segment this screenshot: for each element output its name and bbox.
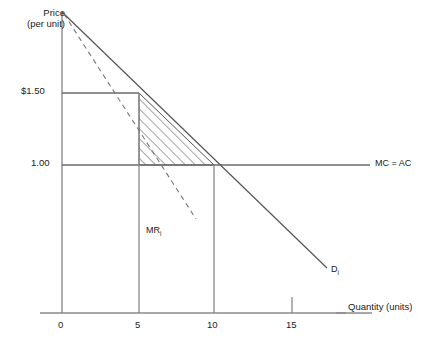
y-axis-title: Price (per unit) bbox=[27, 8, 65, 29]
x-tick-label-15: 15 bbox=[286, 320, 297, 331]
marginal-revenue-line bbox=[64, 14, 196, 219]
x-axis-title: Quantity (units) bbox=[348, 302, 412, 313]
price-label-low: 1.00 bbox=[31, 158, 50, 169]
demand-label-subscript: i bbox=[338, 269, 339, 276]
mc-ac-curve-label: MC = AC bbox=[375, 158, 411, 168]
price-label-high: $1.50 bbox=[21, 86, 45, 97]
economics-diagram bbox=[0, 0, 429, 345]
x-tick-label-10: 10 bbox=[207, 320, 218, 331]
deadweight-loss-region bbox=[139, 93, 214, 165]
x-tick-label-0: 0 bbox=[58, 320, 63, 331]
demand-curve-line bbox=[62, 12, 327, 268]
demand-curve-label: Di bbox=[331, 264, 339, 276]
y-axis-title-line2: (per unit) bbox=[27, 19, 65, 30]
x-tick-label-5: 5 bbox=[135, 320, 140, 331]
mr-label-subscript: i bbox=[160, 230, 161, 237]
y-axis-title-line1: Price bbox=[43, 7, 65, 18]
mr-label-base: MR bbox=[146, 225, 160, 235]
marginal-revenue-curve-label: MRi bbox=[146, 225, 161, 237]
